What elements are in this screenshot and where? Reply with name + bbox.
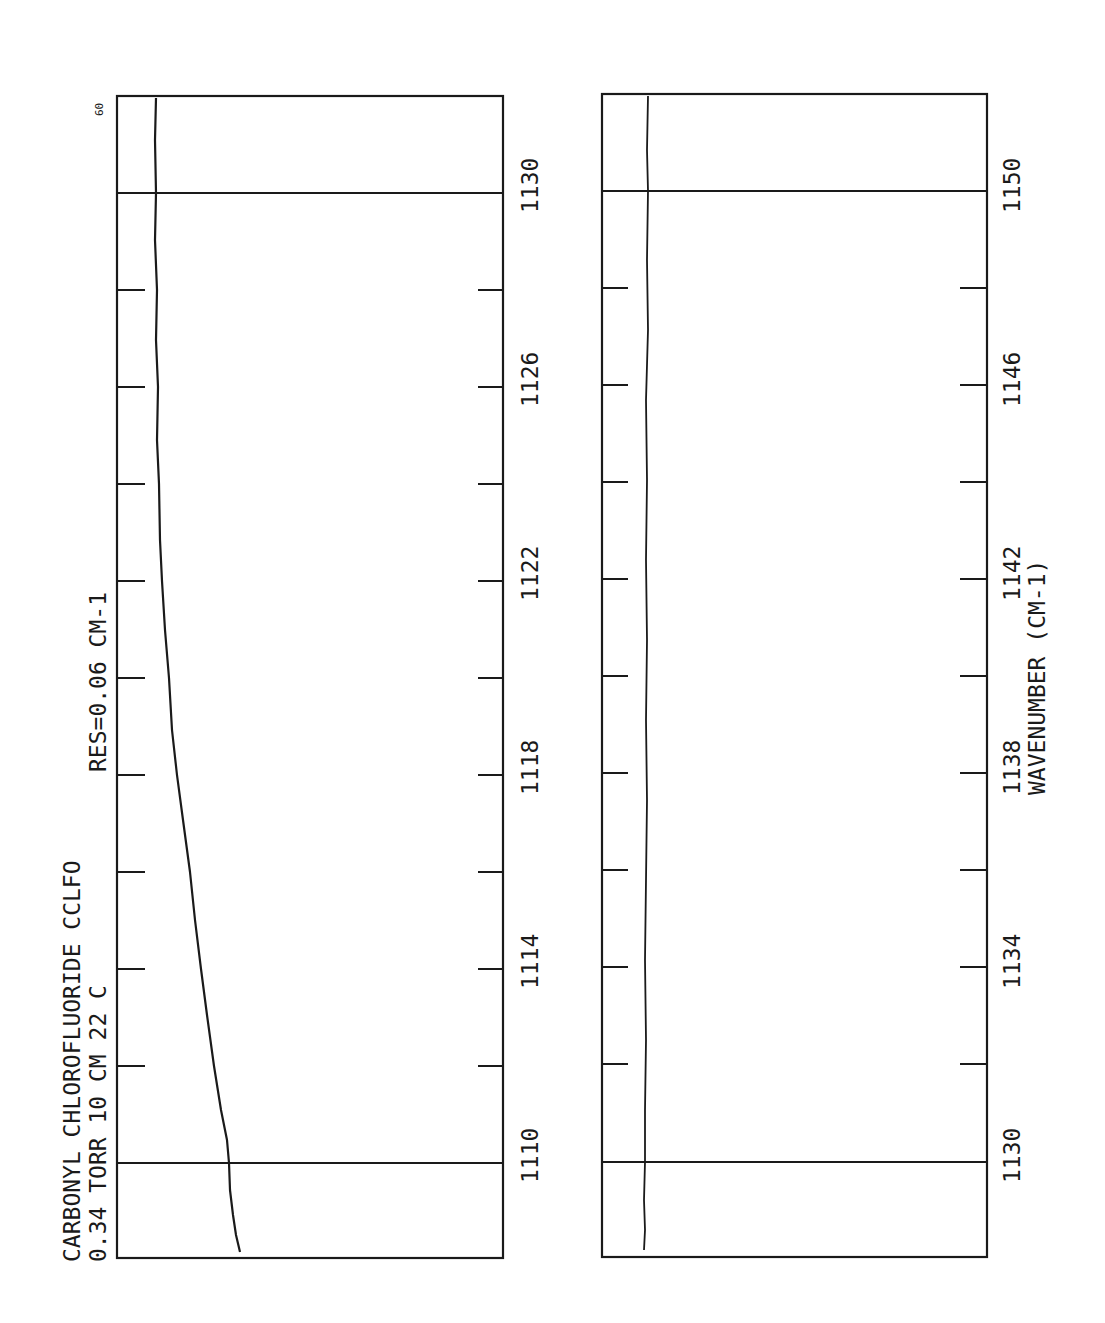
tick-label: 1122 — [517, 546, 543, 601]
tick-label: 1114 — [517, 934, 543, 989]
resolution-label: RES=0.06 CM-1 — [85, 592, 111, 772]
tick-label: 1134 — [999, 934, 1025, 989]
tick-label: 1130 — [517, 158, 543, 213]
panel-2-ticks — [602, 288, 987, 1064]
page-number: 60 — [93, 103, 106, 116]
tick-label: 1126 — [517, 352, 543, 407]
tick-label: 1110 — [517, 1128, 543, 1183]
tick-label: 1138 — [999, 740, 1025, 795]
panel-2 — [602, 94, 987, 1257]
title-line-2: 0.34 TORR 10 CM 22 C — [85, 985, 111, 1262]
resolution-text: RES=0.06 CM-1 — [85, 592, 111, 772]
title-line-1: CARBONYL CHLOROFLUORIDE CCLFO — [59, 860, 85, 1262]
tick-label: 1150 — [999, 158, 1025, 213]
panel-1-ticks — [117, 290, 503, 1066]
panel-1-tick-labels: 1110 1114 1118 1122 1126 1130 — [517, 158, 543, 1183]
x-axis-label: WAVENUMBER (CM-1) — [1024, 560, 1050, 795]
tick-label: 1118 — [517, 740, 543, 795]
panel-1 — [117, 96, 503, 1258]
spectrum-figure: CARBONYL CHLOROFLUORIDE CCLFO 0.34 TORR … — [0, 0, 1105, 1323]
page-marker: 60 — [93, 103, 106, 116]
tick-label: 1146 — [999, 352, 1025, 407]
tick-label: 1130 — [999, 1128, 1025, 1183]
title-text: CARBONYL CHLOROFLUORIDE CCLFO — [59, 860, 85, 1262]
tick-label: 1142 — [999, 546, 1025, 601]
subtitle-text: 0.34 TORR 10 CM 22 C — [85, 985, 111, 1262]
panel-2-frame — [602, 94, 987, 1257]
panel-1-frame — [117, 96, 503, 1258]
spectrum-trace-1 — [155, 98, 240, 1252]
spectrum-trace-2 — [644, 96, 648, 1250]
panel-2-tick-labels: 1130 1134 1138 1142 1146 1150 WAVENUMBER… — [999, 158, 1050, 1183]
